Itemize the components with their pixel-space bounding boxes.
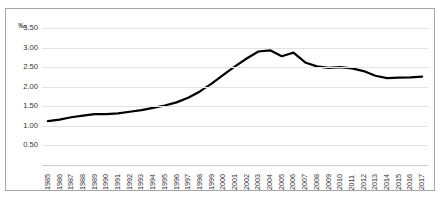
x-axis-tick-label: 2008 xyxy=(313,174,320,190)
x-axis-tick-label: 1994 xyxy=(149,174,156,190)
y-axis-tick-label: 1.00 xyxy=(23,122,38,130)
y-axis-tick-label: 3.00 xyxy=(23,44,38,52)
gridline xyxy=(42,126,428,127)
x-axis-tick-label: 1988 xyxy=(79,174,86,190)
x-axis-tick-label: 1987 xyxy=(67,174,74,190)
gridline xyxy=(42,106,428,107)
x-axis-tick-label: 2003 xyxy=(254,174,261,190)
x-axis-tick-label: 2004 xyxy=(266,174,273,190)
x-axis-tick-label: 1993 xyxy=(137,174,144,190)
x-axis-tick-label: 2010 xyxy=(336,174,343,190)
y-axis-tick-label: 1.50 xyxy=(23,102,38,110)
x-axis-tick-label: 2017 xyxy=(418,174,425,190)
x-axis-tick-label: 2012 xyxy=(360,174,367,190)
x-axis-tick-label: 2007 xyxy=(301,174,308,190)
x-axis-tick-label: 2011 xyxy=(348,175,355,190)
y-axis-tick-label: 2.50 xyxy=(23,63,38,71)
gridline xyxy=(42,145,428,146)
x-axis-tick-label: 1992 xyxy=(126,174,133,190)
y-axis-tick-label: 2.00 xyxy=(23,83,38,91)
y-axis-tick-label: 3.50 xyxy=(23,24,38,32)
x-axis-tick-label: 1990 xyxy=(102,174,109,190)
x-axis-tick-label: 2015 xyxy=(395,174,402,190)
x-axis-tick-label: 1985 xyxy=(44,174,51,190)
x-axis-tick-label: 2006 xyxy=(289,174,296,190)
x-axis-tick-label: 2016 xyxy=(406,174,413,190)
x-axis-tick-label: 1996 xyxy=(173,174,180,190)
y-axis-tick-label: 0.50 xyxy=(23,142,38,150)
plot-area xyxy=(42,28,428,165)
x-axis-tick-label: 1995 xyxy=(161,174,168,190)
x-axis-tick-label: 2005 xyxy=(278,174,285,190)
gridline xyxy=(42,87,428,88)
x-axis-tick-label: 1998 xyxy=(196,174,203,190)
x-axis-tick-label: 2001 xyxy=(231,174,238,190)
x-axis-tick-label: 1999 xyxy=(208,174,215,190)
gridline xyxy=(42,28,428,29)
x-axis-tick-label: 2014 xyxy=(383,174,390,190)
y-axis-tick-labels: 3.503.002.502.001.501.000.50 xyxy=(6,9,42,190)
x-axis-tick-label: 2013 xyxy=(371,174,378,190)
x-axis-baseline xyxy=(42,165,428,166)
gridline xyxy=(42,67,428,68)
chart-plot-wrapper: ‰ 3.503.002.502.001.501.000.50 198519861… xyxy=(6,9,434,190)
x-axis-tick-label: 2009 xyxy=(325,174,332,190)
x-axis-tick-label: 2000 xyxy=(219,174,226,190)
gridline xyxy=(42,48,428,49)
x-axis-tick-label: 1997 xyxy=(184,174,191,190)
chart-figure: ‰ 3.503.002.502.001.501.000.50 198519861… xyxy=(5,8,435,191)
x-axis-tick-label: 2002 xyxy=(243,174,250,190)
x-axis-tick-labels: 1985198619871988198919901991199219931994… xyxy=(42,167,428,190)
x-axis-tick-label: 1991 xyxy=(114,174,121,190)
x-axis-tick-label: 1989 xyxy=(91,174,98,190)
x-axis-tick-label: 1986 xyxy=(56,174,63,190)
